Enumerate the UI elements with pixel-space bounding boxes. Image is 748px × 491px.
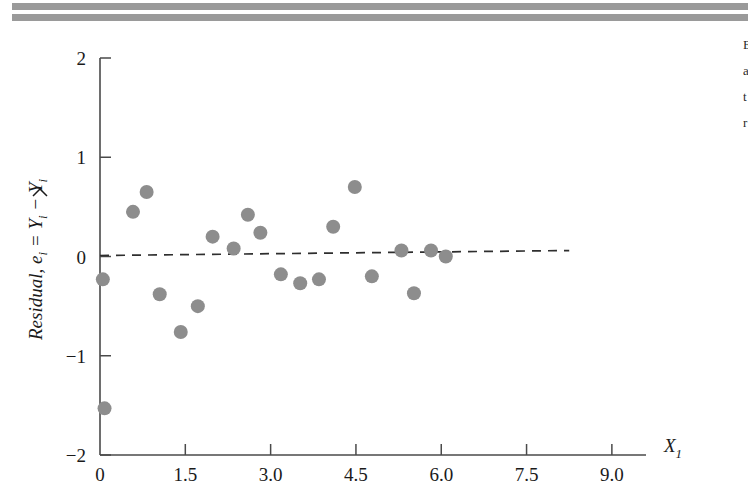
ylabel-eq: =: [25, 230, 46, 252]
ylabel-e: e: [25, 256, 46, 264]
data-point: [140, 185, 154, 199]
x-tick-label-9.0: 9.0: [600, 464, 624, 485]
x-tick-label-4.5: 4.5: [344, 464, 368, 485]
data-point: [206, 230, 220, 244]
data-point: [348, 180, 362, 194]
ylabel-y2-sub: i: [35, 179, 50, 183]
x-axis-title-text: X1: [663, 435, 682, 461]
zero-reference-line: [100, 251, 569, 256]
x-tick-label-3.0: 3.0: [259, 464, 283, 485]
xlabel-sub: 1: [676, 446, 683, 461]
data-point: [191, 299, 205, 313]
figure-page: E a t r −2−1012 01.53.04.56.07.59.0 Resi…: [0, 0, 748, 491]
y-tick-label-0: 0: [77, 247, 87, 268]
data-point: [227, 242, 241, 256]
ylabel-word: Residual,: [25, 269, 46, 341]
data-point: [394, 244, 408, 258]
data-point: [126, 205, 140, 219]
residual-scatter-plot: −2−1012 01.53.04.56.07.59.0 Residual, ei…: [0, 0, 748, 491]
data-point: [253, 226, 267, 240]
data-point: [274, 267, 288, 281]
y-tick-label-1: 1: [77, 147, 87, 168]
data-point: [174, 325, 188, 339]
y-tick-label-2: 2: [77, 48, 87, 69]
data-point: [312, 272, 326, 286]
x-tick-label-7.5: 7.5: [515, 464, 539, 485]
chart-svg: −2−1012 01.53.04.56.07.59.0 Residual, ei…: [0, 0, 748, 491]
x-axis-title: X1: [663, 435, 682, 461]
x-tick-label-1.5: 1.5: [173, 464, 197, 485]
y-tick-label--2: −2: [66, 445, 86, 466]
data-point: [293, 276, 307, 290]
x-axis: 01.53.04.56.07.59.0: [95, 444, 646, 485]
y-axis-title-text: Residual, ei = Yi − Yi: [25, 179, 50, 342]
data-point: [407, 286, 421, 300]
x-tick-label-0: 0: [95, 464, 105, 485]
x-tick-label-6.0: 6.0: [429, 464, 453, 485]
y-tick-label--1: −1: [66, 346, 86, 367]
data-point: [365, 269, 379, 283]
data-point: [153, 287, 167, 301]
y-axis-title: Residual, ei = Yi − Yi: [25, 179, 50, 342]
data-point: [96, 272, 110, 286]
x-tick-group: 01.53.04.56.07.59.0: [95, 444, 624, 485]
data-point: [439, 250, 453, 264]
ylabel-minus: −: [25, 193, 46, 215]
data-point: [241, 208, 255, 222]
data-point: [326, 220, 340, 234]
data-point-group: [96, 180, 453, 415]
data-point: [98, 401, 112, 415]
data-point: [424, 244, 438, 258]
